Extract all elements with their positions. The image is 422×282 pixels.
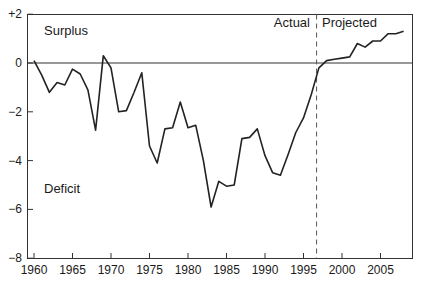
plot-frame: [28, 15, 413, 259]
y-tick-label: 0: [15, 56, 22, 70]
y-tick-label: −6: [8, 202, 22, 216]
y-tick-label: −4: [8, 154, 22, 168]
x-tick-label: 1975: [136, 263, 163, 277]
x-tick-label: 1980: [175, 263, 202, 277]
x-tick-label: 1970: [98, 263, 125, 277]
x-tick-label: 1995: [290, 263, 317, 277]
budget-balance-chart: +20−2−4−6−8 1960196519701975198019851990…: [0, 0, 422, 282]
projected-label: Projected: [322, 15, 377, 30]
x-tick-label: 2000: [329, 263, 356, 277]
actual-label: Actual: [274, 15, 310, 30]
x-tick-label: 1985: [213, 263, 240, 277]
x-tick-label: 1960: [21, 263, 48, 277]
x-tick-label: 1990: [252, 263, 279, 277]
y-axis: +20−2−4−6−8: [8, 7, 33, 265]
y-tick-label: −2: [8, 105, 22, 119]
x-axis: 1960196519701975198019851990199520002005: [21, 253, 395, 277]
x-tick-label: 2005: [367, 263, 394, 277]
x-tick-label: 1965: [59, 263, 86, 277]
y-tick-label: +2: [8, 7, 22, 21]
surplus-label: Surplus: [44, 23, 89, 38]
deficit-label: Deficit: [44, 181, 81, 196]
budget-balance-line: [34, 31, 404, 207]
